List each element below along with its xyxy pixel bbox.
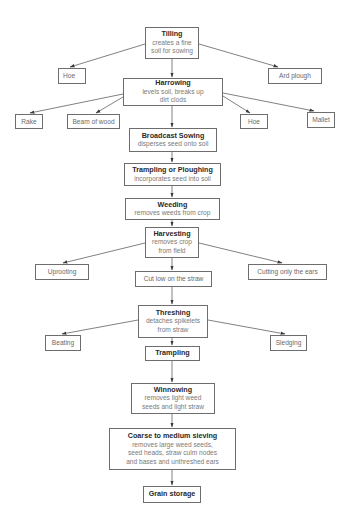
step-description: creates a fine soil for sowing [151,39,193,56]
step-title: Grain storage [149,490,196,499]
tool-hoe: Hoe [58,68,86,84]
arrow-threshing-to-sledging [208,320,285,334]
method-label: Uprooting [48,268,77,276]
step-title: Winnowing [154,386,192,395]
step-title: Weeding [158,201,188,210]
arrow-harrowing-to-hoe2 [223,96,250,113]
step-trampling-or-ploughing: Trampling or Ploughing incorporates seed… [124,163,221,186]
method-beating: Beating [45,335,81,351]
tool-label: Ard plough [279,72,311,80]
method-label: Sledging [276,339,302,347]
step-title: Harrowing [155,79,191,88]
step-weeding: Weeding removes weeds from crop [125,198,220,220]
step-title: Coarse to medium sieving [128,432,217,441]
step-title: Trampling or Ploughing [132,166,213,175]
arrow-harvesting-to-cutting-ears [199,243,282,263]
method-cutting-only-ears: Cutting only the ears [248,264,327,280]
method-sledging: Sledging [270,335,307,351]
step-broadcast-sowing: Broadcast Sowing disperses seed onto soi… [129,128,217,152]
arrow-harvesting-to-uprooting [63,243,145,263]
step-grain-storage: Grain storage [143,486,201,503]
step-threshing: Threshing detaches spikelets from straw [138,305,208,338]
step-description: removes weeds from crop [135,209,211,217]
step-trampling: Trampling [145,346,200,361]
arrow-harrowing-to-beam-of-wood [96,97,123,113]
step-description: removes large weed seeds, seed heads, st… [126,441,219,466]
step-title: Broadcast Sowing [142,132,205,141]
arrow-threshing-to-beating [62,320,138,334]
tool-hoe: Hoe [240,114,268,129]
step-coarse-to-medium-sieving: Coarse to medium sieving removes large w… [109,428,236,470]
step-description: removes light weed seeds and light straw [142,394,204,411]
step-tilling: Tilling creates a fine soil for sowing [145,27,199,59]
step-title: Tilling [161,30,182,39]
method-label: Beating [52,339,74,347]
step-description: removes crop from field [152,238,192,255]
method-label: Cut low on the straw [144,275,204,283]
step-description: disperses seed onto soil [138,140,209,148]
step-harvesting: Harvesting removes crop from field [145,227,199,258]
tool-label: Hoe [63,72,75,80]
arrow-harrowing-to-rake [30,94,123,113]
tool-label: Beam of wood [72,118,114,126]
step-title: Threshing [156,309,191,318]
step-title: Harvesting [153,230,190,239]
step-description: levels soil, breaks up dirt clods [142,88,203,105]
arrow-harrowing-to-mallet [223,93,314,111]
arrow-tilling-to-hoe1 [70,44,145,67]
tool-label: Mallet [312,116,330,124]
method-cut-low-on-straw: Cut low on the straw [135,271,212,287]
tool-ard-plough: Ard plough [268,68,322,84]
method-label: Cutting only the ears [257,268,317,276]
tool-label: Rake [21,118,36,126]
tool-mallet: Mallet [307,112,335,128]
step-title: Trampling [155,349,189,358]
method-uprooting: Uprooting [35,264,89,280]
step-description: incorporates seed into soil [134,175,211,183]
arrow-tilling-to-ard-plough [199,44,278,67]
tool-rake: Rake [15,114,43,129]
step-description: detaches spikelets from straw [146,317,200,334]
tool-label: Hoe [248,118,260,126]
step-harrowing: Harrowing levels soil, breaks up dirt cl… [123,78,223,106]
step-winnowing: Winnowing removes light weed seeds and l… [131,383,215,414]
tool-beam-of-wood: Beam of wood [67,114,120,129]
